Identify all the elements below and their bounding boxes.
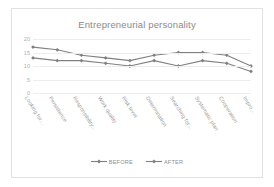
grid-line: 5 <box>33 80 251 81</box>
legend-marker-icon <box>146 158 162 165</box>
data-point-marker <box>80 59 84 63</box>
grid-line: 15 <box>33 53 251 54</box>
chart-screenshot: Entrepreneurial personality 05101520 Loo… <box>0 0 274 187</box>
chart-title: Entrepreneurial personality <box>12 19 262 30</box>
legend-label: AFTER <box>164 159 183 165</box>
data-point-marker <box>104 61 108 65</box>
plot-area: 05101520 <box>33 39 251 93</box>
data-point-marker <box>55 48 59 52</box>
y-axis-tick-label: 10 <box>24 63 30 69</box>
data-point-marker <box>80 53 84 57</box>
y-axis-tick-label: 5 <box>27 77 30 83</box>
legend-item[interactable]: BEFORE <box>91 158 133 165</box>
legend-item[interactable]: AFTER <box>146 158 183 165</box>
x-axis-tick-label: Impro... <box>242 95 257 114</box>
x-axis-tick-label: Searching for... <box>169 95 194 130</box>
x-axis-tick-label: Responsibility... <box>72 95 98 131</box>
y-axis-tick-label: 15 <box>24 50 30 56</box>
data-point-marker <box>201 59 205 63</box>
grid-line: 10 <box>33 66 251 67</box>
x-axis-tick-label: Determination <box>145 95 169 128</box>
series-line <box>33 58 251 72</box>
data-point-marker <box>249 70 253 74</box>
x-axis-tick-label: Work quality <box>97 95 118 124</box>
legend-label: BEFORE <box>109 159 133 165</box>
data-point-marker <box>55 59 59 63</box>
x-axis-tick-label: Persistence <box>48 95 69 123</box>
x-axis-labels: Looking for...PersistenceResponsibility.… <box>33 95 251 151</box>
data-point-marker <box>128 59 132 63</box>
legend-marker-icon <box>91 158 107 165</box>
data-point-marker <box>152 59 156 63</box>
grid-line: 20 <box>33 39 251 40</box>
y-axis-tick-label: 20 <box>24 36 30 42</box>
x-axis-tick-label: Cooperation <box>218 95 239 124</box>
data-point-marker <box>152 53 156 57</box>
x-axis-tick-label: Looking for... <box>24 95 46 126</box>
data-point-marker <box>31 45 35 49</box>
data-point-marker <box>104 56 108 60</box>
chart-container: Entrepreneurial personality 05101520 Loo… <box>11 8 263 178</box>
data-point-marker <box>31 56 35 60</box>
grid-line: 0 <box>33 93 251 94</box>
data-point-marker <box>225 61 229 65</box>
x-axis-tick-label: Systematic plan <box>193 95 219 132</box>
x-axis-tick-label: Risk level <box>121 95 139 119</box>
chart-legend: BEFOREAFTER <box>12 158 262 165</box>
data-point-marker <box>225 53 229 57</box>
